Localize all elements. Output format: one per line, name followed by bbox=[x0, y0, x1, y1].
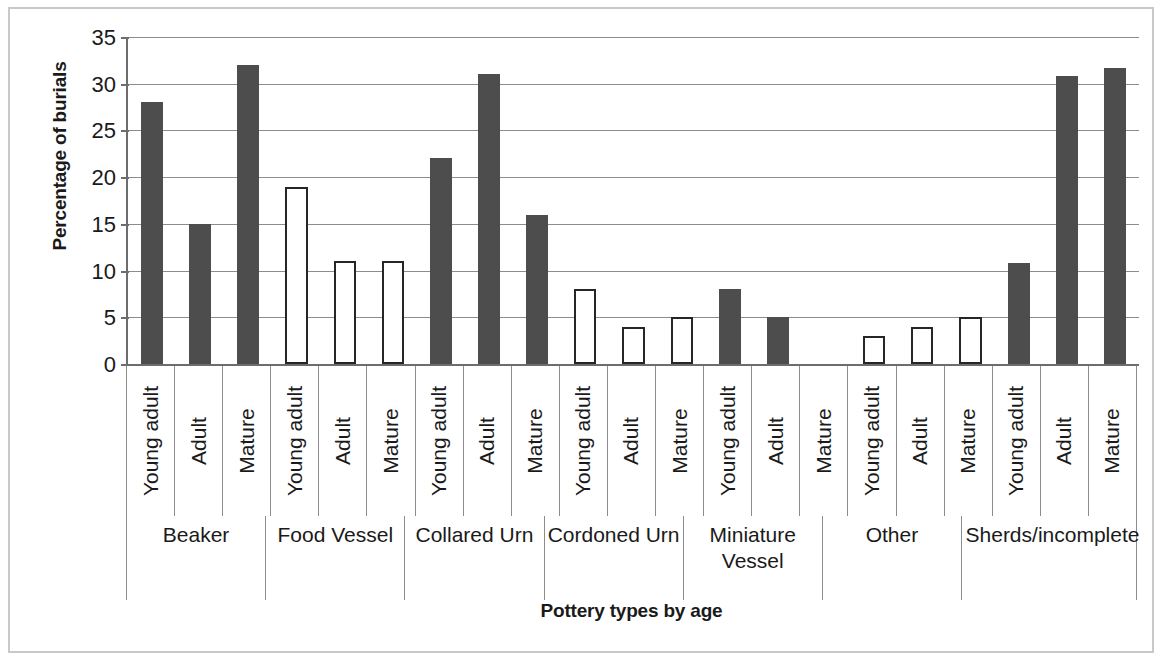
bar-slot bbox=[1043, 37, 1091, 364]
age-label-cell: Adult bbox=[1041, 366, 1089, 516]
bar-slot bbox=[754, 37, 802, 364]
bar-slot bbox=[272, 37, 320, 364]
group-label: Collared Urn bbox=[415, 522, 533, 548]
age-label-cell: Mature bbox=[367, 366, 415, 516]
bar[interactable] bbox=[141, 102, 163, 364]
bar-slot bbox=[609, 37, 657, 364]
age-label: Young adult bbox=[1004, 371, 1028, 511]
age-label-cell: Adult bbox=[897, 366, 945, 516]
age-label: Adult bbox=[475, 371, 499, 511]
age-label-cell: Young adult bbox=[416, 366, 464, 516]
age-label-cell: Mature bbox=[223, 366, 271, 516]
y-axis-tick-label: 20 bbox=[30, 167, 116, 189]
bar-slot bbox=[706, 37, 754, 364]
bar-slot bbox=[946, 37, 994, 364]
group-label: Cordoned Urn bbox=[548, 522, 680, 548]
age-label-cell: Mature bbox=[512, 366, 560, 516]
bar[interactable] bbox=[189, 224, 211, 364]
group-label-cell: Collared Urn bbox=[405, 516, 544, 600]
age-label: Mature bbox=[379, 371, 403, 511]
bar[interactable] bbox=[526, 215, 548, 364]
x-axis-age-labels: Young adultAdultMatureYoung adultAdultMa… bbox=[126, 366, 1137, 516]
age-label-cell: Mature bbox=[656, 366, 704, 516]
y-axis-tick-label: 5 bbox=[30, 307, 116, 329]
age-label-cell: Adult bbox=[464, 366, 512, 516]
age-label-cell: Young adult bbox=[993, 366, 1041, 516]
age-label: Young adult bbox=[427, 371, 451, 511]
bar[interactable] bbox=[719, 289, 741, 364]
group-label-cell: Beaker bbox=[126, 516, 266, 600]
bar-slot bbox=[850, 37, 898, 364]
age-label-cell: Mature bbox=[945, 366, 993, 516]
age-label: Mature bbox=[1100, 371, 1124, 511]
group-label: Sherds/incomplete bbox=[966, 522, 1133, 548]
bar[interactable] bbox=[911, 327, 933, 364]
age-label: Mature bbox=[668, 371, 692, 511]
age-label-cell: Adult bbox=[608, 366, 656, 516]
bar-slot bbox=[802, 37, 850, 364]
age-label: Young adult bbox=[571, 371, 595, 511]
bar[interactable] bbox=[671, 317, 693, 364]
group-label-cell: Food Vessel bbox=[266, 516, 405, 600]
bar-slot bbox=[561, 37, 609, 364]
group-label-cell: Sherds/incomplete bbox=[962, 516, 1137, 600]
bar[interactable] bbox=[1056, 76, 1078, 364]
age-label: Mature bbox=[956, 371, 980, 511]
chart-page: Percentage of burials 35302520151050 You… bbox=[0, 0, 1163, 661]
age-label: Young adult bbox=[860, 371, 884, 511]
age-label: Mature bbox=[235, 371, 259, 511]
bar[interactable] bbox=[622, 327, 644, 364]
bar[interactable] bbox=[382, 261, 404, 364]
age-label-cell: Mature bbox=[1089, 366, 1137, 516]
age-label: Adult bbox=[908, 371, 932, 511]
bar[interactable] bbox=[767, 317, 789, 364]
y-axis-tick-label: 30 bbox=[30, 74, 116, 96]
y-axis-tick-label: 10 bbox=[30, 261, 116, 283]
group-label-cell: Other bbox=[823, 516, 962, 600]
x-axis-group-labels: BeakerFood VesselCollared UrnCordoned Ur… bbox=[126, 516, 1137, 600]
bar-slot bbox=[513, 37, 561, 364]
age-label: Young adult bbox=[139, 371, 163, 511]
bar[interactable] bbox=[478, 74, 500, 364]
y-axis-tick-label: 35 bbox=[30, 27, 116, 49]
bar[interactable] bbox=[1008, 263, 1030, 364]
bar[interactable] bbox=[1104, 68, 1126, 364]
age-label-cell: Young adult bbox=[126, 366, 175, 516]
bar[interactable] bbox=[574, 289, 596, 364]
age-label-cell: Mature bbox=[800, 366, 848, 516]
age-label-cell: Adult bbox=[752, 366, 800, 516]
group-label: Miniature Vessel bbox=[686, 522, 819, 574]
bars-layer bbox=[128, 37, 1139, 364]
bar-slot bbox=[1091, 37, 1139, 364]
x-axis-title: Pottery types by age bbox=[126, 600, 1137, 622]
y-axis-tick-label: 0 bbox=[30, 354, 116, 376]
age-label: Adult bbox=[187, 371, 211, 511]
group-label-cell: Miniature Vessel bbox=[684, 516, 823, 600]
age-label-cell: Young adult bbox=[560, 366, 608, 516]
y-axis-tick-labels: 35302520151050 bbox=[30, 27, 116, 374]
bar[interactable] bbox=[237, 65, 259, 364]
age-label-cell: Young adult bbox=[704, 366, 752, 516]
age-label: Mature bbox=[523, 371, 547, 511]
bar-slot bbox=[321, 37, 369, 364]
group-label: Beaker bbox=[163, 522, 230, 548]
bar[interactable] bbox=[959, 317, 981, 364]
y-axis-tick-label: 25 bbox=[30, 120, 116, 142]
group-label: Food Vessel bbox=[277, 522, 393, 548]
age-label: Young adult bbox=[716, 371, 740, 511]
bar-slot bbox=[465, 37, 513, 364]
age-label-cell: Adult bbox=[175, 366, 223, 516]
bar-slot bbox=[369, 37, 417, 364]
bar[interactable] bbox=[430, 158, 452, 364]
plot-area bbox=[126, 37, 1139, 366]
group-label-cell: Cordoned Urn bbox=[545, 516, 684, 600]
bar[interactable] bbox=[863, 336, 885, 364]
age-label: Adult bbox=[619, 371, 643, 511]
bar-slot bbox=[898, 37, 946, 364]
age-label: Adult bbox=[331, 371, 355, 511]
bar-slot bbox=[658, 37, 706, 364]
y-axis-tick-label: 15 bbox=[30, 214, 116, 236]
bar[interactable] bbox=[334, 261, 356, 364]
bar-slot bbox=[417, 37, 465, 364]
bar[interactable] bbox=[285, 187, 307, 365]
